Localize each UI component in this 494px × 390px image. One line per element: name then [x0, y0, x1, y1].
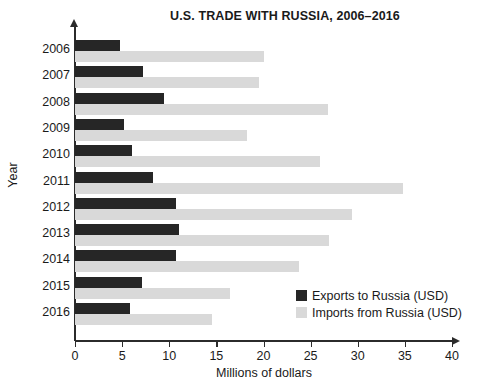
- bar-imports-2006: [75, 51, 264, 62]
- bar-imports-2009: [75, 130, 247, 141]
- x-axis-tick: [264, 341, 265, 347]
- x-axis-tick: [216, 341, 217, 347]
- bar-exports-2007: [75, 66, 143, 77]
- bar-exports-2008: [75, 93, 164, 104]
- y-axis-tick-label: 2012: [0, 200, 70, 214]
- legend-swatch-icon: [296, 307, 307, 318]
- x-axis-tick-label: 40: [432, 349, 472, 363]
- y-axis-tick-label: 2006: [0, 42, 70, 56]
- bar-exports-2014: [75, 250, 176, 261]
- bar-imports-2016: [75, 314, 212, 325]
- bar-imports-2010: [75, 156, 320, 167]
- x-axis-tick-label: 35: [385, 349, 425, 363]
- legend-swatch-icon: [296, 290, 307, 301]
- y-axis-arrow-icon: [70, 19, 78, 27]
- bar-imports-2011: [75, 183, 403, 194]
- bar-exports-2016: [75, 303, 130, 314]
- bar-imports-2007: [75, 77, 259, 88]
- y-axis-tick-label: 2016: [0, 305, 70, 319]
- bar-exports-2015: [75, 277, 142, 288]
- x-axis-tick-label: 5: [102, 349, 142, 363]
- x-axis-tick-label: 25: [291, 349, 331, 363]
- bar-imports-2013: [75, 235, 329, 246]
- bar-exports-2009: [75, 119, 124, 130]
- chart-legend: Exports to Russia (USD)Imports from Russ…: [296, 287, 462, 321]
- bar-imports-2015: [75, 288, 230, 299]
- bar-imports-2008: [75, 104, 328, 115]
- bar-imports-2012: [75, 209, 352, 220]
- bar-exports-2012: [75, 198, 176, 209]
- bar-exports-2013: [75, 224, 179, 235]
- x-axis-arrow-icon: [452, 337, 460, 345]
- x-axis-tick-label: 15: [196, 349, 236, 363]
- y-axis-tick-label: 2009: [0, 121, 70, 135]
- x-axis-tick: [358, 341, 359, 347]
- y-axis-tick-label: 2013: [0, 226, 70, 240]
- x-axis-tick-label: 20: [244, 349, 284, 363]
- x-axis-tick-label: 0: [55, 349, 95, 363]
- x-axis-title: Millions of dollars: [75, 366, 453, 380]
- bar-exports-2010: [75, 145, 132, 156]
- y-axis-tick-label: 2008: [0, 95, 70, 109]
- x-axis-tick: [122, 341, 123, 347]
- legend-item-imports: Imports from Russia (USD): [296, 304, 462, 321]
- legend-item-exports: Exports to Russia (USD): [296, 287, 462, 304]
- legend-label: Exports to Russia (USD): [312, 289, 448, 303]
- bar-exports-2011: [75, 172, 153, 183]
- x-axis-tick-label: 10: [149, 349, 189, 363]
- chart-title: U.S. TRADE WITH RUSSIA, 2006–2016: [75, 9, 494, 23]
- y-axis-tick-label: 2015: [0, 279, 70, 293]
- y-axis-tick-label: 2010: [0, 147, 70, 161]
- x-axis-tick: [75, 341, 76, 347]
- y-axis-tick-label: 2011: [0, 174, 70, 188]
- x-axis-tick: [169, 341, 170, 347]
- legend-label: Imports from Russia (USD): [312, 306, 462, 320]
- x-axis-tick: [405, 341, 406, 347]
- x-axis-tick: [311, 341, 312, 347]
- bar-imports-2014: [75, 261, 299, 272]
- y-axis-tick-label: 2007: [0, 68, 70, 82]
- trade-bar-chart: U.S. TRADE WITH RUSSIA, 2006–2016 Year M…: [0, 0, 494, 390]
- y-axis-tick-label: 2014: [0, 252, 70, 266]
- x-axis-tick: [452, 341, 453, 347]
- x-axis-tick-label: 30: [338, 349, 378, 363]
- bar-exports-2006: [75, 40, 120, 51]
